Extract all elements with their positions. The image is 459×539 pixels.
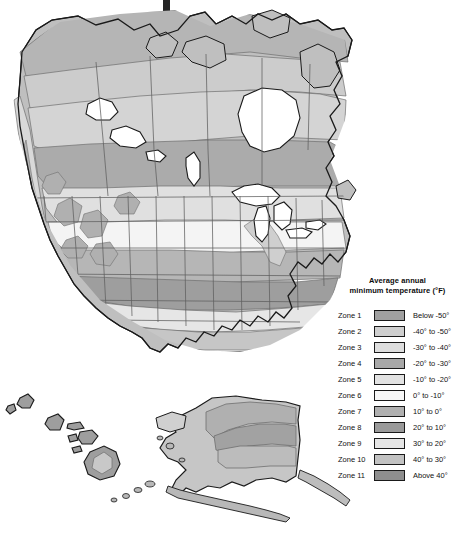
legend-zone-label: Zone 7 bbox=[338, 407, 374, 416]
legend-zone-label: Zone 2 bbox=[338, 327, 374, 336]
legend-row: Zone 2-40° to -50° bbox=[338, 323, 459, 339]
legend-range-label: Above 40° bbox=[413, 471, 448, 480]
legend-range-label: 30° to 20° bbox=[413, 439, 446, 448]
legend-color-swatch bbox=[374, 326, 405, 337]
island-molokai bbox=[67, 422, 84, 430]
legend-row: Zone 710° to 0° bbox=[338, 404, 459, 420]
legend-range-label: -20° to -30° bbox=[413, 359, 451, 368]
plant-hardiness-zone-map-page: Average annual minimum temperature (°F) … bbox=[0, 0, 459, 539]
legend-title: Average annual minimum temperature (°F) bbox=[338, 276, 459, 296]
legend-color-swatch bbox=[374, 374, 405, 385]
legend-rows: Zone 1Below -50°Zone 2-40° to -50°Zone 3… bbox=[338, 307, 459, 484]
island-kahoolawe bbox=[72, 446, 82, 453]
legend-zone-label: Zone 3 bbox=[338, 343, 374, 352]
legend-range-label: -30° to -40° bbox=[413, 343, 451, 352]
legend-title-line1: Average annual bbox=[338, 276, 457, 286]
alaska-western-peninsulas bbox=[156, 412, 186, 432]
legend-row: Zone 11Above 40° bbox=[338, 468, 459, 484]
legend-color-swatch bbox=[374, 406, 405, 417]
legend-color-swatch bbox=[374, 470, 405, 481]
legend-row: Zone 3-30° to -40° bbox=[338, 339, 459, 355]
island-maui bbox=[78, 430, 98, 444]
newfoundland bbox=[336, 180, 356, 200]
island-oahu bbox=[45, 414, 64, 430]
legend-row: Zone 930° to 20° bbox=[338, 436, 459, 452]
legend-zone-label: Zone 8 bbox=[338, 423, 374, 432]
legend-row: Zone 5-10° to -20° bbox=[338, 371, 459, 387]
legend-row: Zone 1Below -50° bbox=[338, 307, 459, 323]
legend-zone-label: Zone 4 bbox=[338, 359, 374, 368]
legend-color-swatch bbox=[374, 310, 405, 321]
legend-range-label: -40° to -50° bbox=[413, 327, 451, 336]
legend-zone-label: Zone 9 bbox=[338, 439, 374, 448]
legend-zone-label: Zone 11 bbox=[338, 471, 374, 480]
legend-range-label: 20° to 10° bbox=[413, 423, 446, 432]
alaska-zone-band-inner-3 bbox=[218, 446, 296, 468]
legend-color-swatch bbox=[374, 342, 405, 353]
island-kauai bbox=[17, 394, 34, 408]
legend-title-line2: minimum temperature (°F) bbox=[338, 286, 457, 296]
alaska-inset bbox=[111, 396, 350, 522]
legend-zone-label: Zone 5 bbox=[338, 375, 374, 384]
legend-row: Zone 60° to -10° bbox=[338, 387, 459, 403]
legend-row: Zone 1040° to 30° bbox=[338, 452, 459, 468]
legend-row: Zone 4-20° to -30° bbox=[338, 355, 459, 371]
legend-range-label: Below -50° bbox=[413, 311, 449, 320]
legend-color-swatch bbox=[374, 358, 405, 369]
legend-color-swatch bbox=[374, 390, 405, 401]
legend-range-label: 40° to 30° bbox=[413, 455, 446, 464]
legend-color-swatch bbox=[374, 422, 405, 433]
legend-color-swatch bbox=[374, 454, 405, 465]
legend-zone-label: Zone 1 bbox=[338, 311, 374, 320]
island-niihau bbox=[6, 404, 16, 414]
map-legend: Average annual minimum temperature (°F) … bbox=[338, 276, 459, 484]
legend-range-label: 10° to 0° bbox=[413, 407, 442, 416]
legend-range-label: 0° to -10° bbox=[413, 391, 444, 400]
alaska-aleutian-chain bbox=[166, 486, 290, 522]
legend-range-label: -10° to -20° bbox=[413, 375, 451, 384]
island-lanai bbox=[68, 434, 78, 442]
legend-zone-label: Zone 10 bbox=[338, 455, 374, 464]
legend-zone-label: Zone 6 bbox=[338, 391, 374, 400]
legend-color-swatch bbox=[374, 438, 405, 449]
legend-row: Zone 820° to 10° bbox=[338, 420, 459, 436]
